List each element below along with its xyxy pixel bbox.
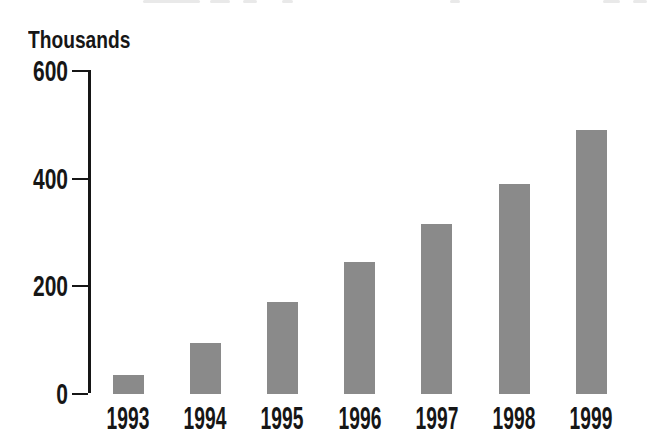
y-tick-mark-600 bbox=[72, 70, 88, 72]
x-tick-label-1995: 1995 bbox=[258, 402, 306, 435]
x-tick-label-1998: 1998 bbox=[490, 402, 538, 435]
scanned-bar-chart-page: Thousands 0200400600 1993199419951996199… bbox=[0, 0, 652, 443]
scan-artifact bbox=[210, 0, 230, 3]
bar-1996 bbox=[344, 262, 375, 394]
y-tick-label-600: 600 bbox=[20, 55, 68, 87]
y-tick-label-400: 400 bbox=[20, 163, 68, 195]
x-tick-label-1999: 1999 bbox=[567, 402, 615, 435]
bar-1995 bbox=[267, 302, 298, 394]
y-axis-line bbox=[88, 70, 91, 393]
y-tick-mark-400 bbox=[72, 178, 88, 180]
scan-artifact bbox=[243, 0, 257, 3]
y-tick-label-200: 200 bbox=[20, 270, 68, 302]
y-tick-mark-200 bbox=[72, 285, 88, 287]
y-axis-unit-label: Thousands bbox=[28, 26, 130, 54]
scan-artifact bbox=[603, 0, 620, 3]
scan-artifact bbox=[450, 0, 460, 3]
bar-1994 bbox=[190, 343, 221, 394]
scan-artifact bbox=[143, 0, 200, 3]
scan-artifact bbox=[633, 0, 647, 3]
bar-1998 bbox=[499, 184, 530, 394]
bar-1999 bbox=[576, 130, 607, 394]
x-tick-label-1996: 1996 bbox=[335, 402, 383, 435]
bar-1993 bbox=[113, 375, 144, 394]
scan-artifact bbox=[282, 0, 293, 3]
y-tick-mark-0 bbox=[72, 393, 88, 395]
x-tick-label-1993: 1993 bbox=[104, 402, 152, 435]
x-tick-label-1994: 1994 bbox=[181, 402, 229, 435]
y-tick-label-0: 0 bbox=[20, 378, 68, 410]
bar-1997 bbox=[421, 224, 452, 394]
x-tick-label-1997: 1997 bbox=[413, 402, 461, 435]
